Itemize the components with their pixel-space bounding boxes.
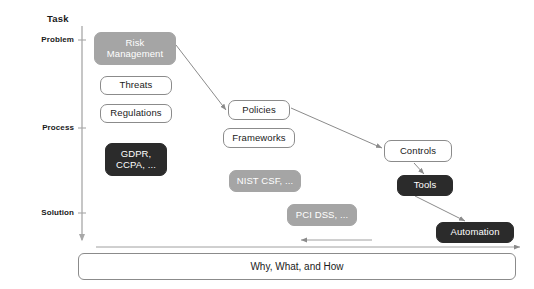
- node-label: Automation: [450, 227, 499, 238]
- axis-tick-solution: Solution: [14, 208, 74, 217]
- node-label: Policies: [242, 105, 276, 116]
- diagram-canvas: Task ProblemProcessSolution Risk: [0, 0, 534, 289]
- node-risk-management[interactable]: Risk Management: [94, 32, 176, 65]
- node-pci-dss[interactable]: PCI DSS, ...: [287, 204, 357, 226]
- node-frameworks[interactable]: Frameworks: [223, 128, 295, 148]
- axis-title: Task: [47, 13, 69, 24]
- axis-tick-process: Process: [14, 123, 74, 132]
- axis-tick-problem: Problem: [14, 35, 74, 44]
- node-label: Threats: [120, 80, 153, 91]
- bottom-bar: Why, What, and How: [78, 253, 516, 280]
- edge-risk-to-policies: [176, 45, 226, 110]
- node-regulations[interactable]: Regulations: [100, 104, 172, 123]
- node-gdpr-ccpa[interactable]: GDPR, CCPA, ...: [105, 143, 167, 176]
- node-label: NIST CSF, ...: [237, 176, 294, 187]
- node-label: PCI DSS, ...: [296, 210, 348, 221]
- node-policies[interactable]: Policies: [228, 100, 290, 120]
- node-label: Controls: [400, 146, 436, 157]
- node-label: Regulations: [110, 108, 161, 119]
- edge-policies-to-controls: [291, 108, 382, 148]
- node-automation[interactable]: Automation: [436, 222, 514, 243]
- edge-controls-to-tools: [414, 163, 424, 174]
- node-label: Frameworks: [232, 133, 285, 144]
- node-nist-csf[interactable]: NIST CSF, ...: [229, 170, 301, 192]
- node-controls[interactable]: Controls: [384, 140, 452, 162]
- vertical-axis: [78, 26, 86, 240]
- bottom-bar-label: Why, What, and How: [250, 261, 343, 272]
- node-threats[interactable]: Threats: [100, 76, 172, 95]
- edge-tools-to-automation: [415, 196, 465, 221]
- node-label: GDPR, CCPA, ...: [116, 149, 156, 170]
- node-tools[interactable]: Tools: [397, 175, 453, 196]
- node-label: Risk Management: [107, 38, 163, 59]
- node-label: Tools: [414, 180, 437, 191]
